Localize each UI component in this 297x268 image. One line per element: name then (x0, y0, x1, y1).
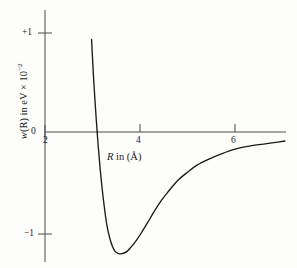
potential-curve (92, 40, 285, 254)
x-tick-label-four: 4 (136, 136, 141, 146)
chart-canvas (0, 0, 297, 268)
x-axis-title: R in (Å) (107, 152, 141, 163)
y-axis-symbol: w (18, 132, 29, 139)
y-axis-units: (R) in eV × 10 (18, 71, 29, 132)
x-tick-label-six: 6 (231, 136, 236, 146)
x-tick-label-two: 2 (43, 136, 48, 146)
y-tick-label-minus-one: −1 (24, 229, 34, 239)
y-tick-label-plus-one: +1 (22, 28, 32, 38)
x-axis-units: in (Å) (113, 151, 141, 162)
potential-energy-chart: +1 0 −1 2 4 6 R in (Å) w(R) in eV × 10−2 (0, 0, 297, 268)
y-axis-exponent: −2 (16, 63, 24, 71)
y-tick-label-zero: 0 (31, 127, 36, 137)
y-axis-title: w(R) in eV × 10−2 (19, 41, 30, 161)
